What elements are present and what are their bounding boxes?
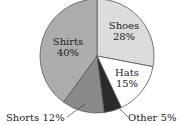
- label-other: Other 5%: [128, 112, 176, 123]
- label-hats-value: 15%: [116, 78, 138, 89]
- pie-chart: Shoes 28% Hats 15% Shirts 40% Shorts 12%…: [0, 0, 181, 125]
- label-hats-name: Hats: [115, 67, 139, 78]
- label-shirts-value: 40%: [57, 47, 79, 58]
- label-shoes-name: Shoes: [109, 20, 139, 31]
- label-shorts: Shorts 12%: [6, 112, 65, 123]
- label-shoes-value: 28%: [113, 31, 135, 42]
- label-shirts-name: Shirts: [53, 36, 83, 47]
